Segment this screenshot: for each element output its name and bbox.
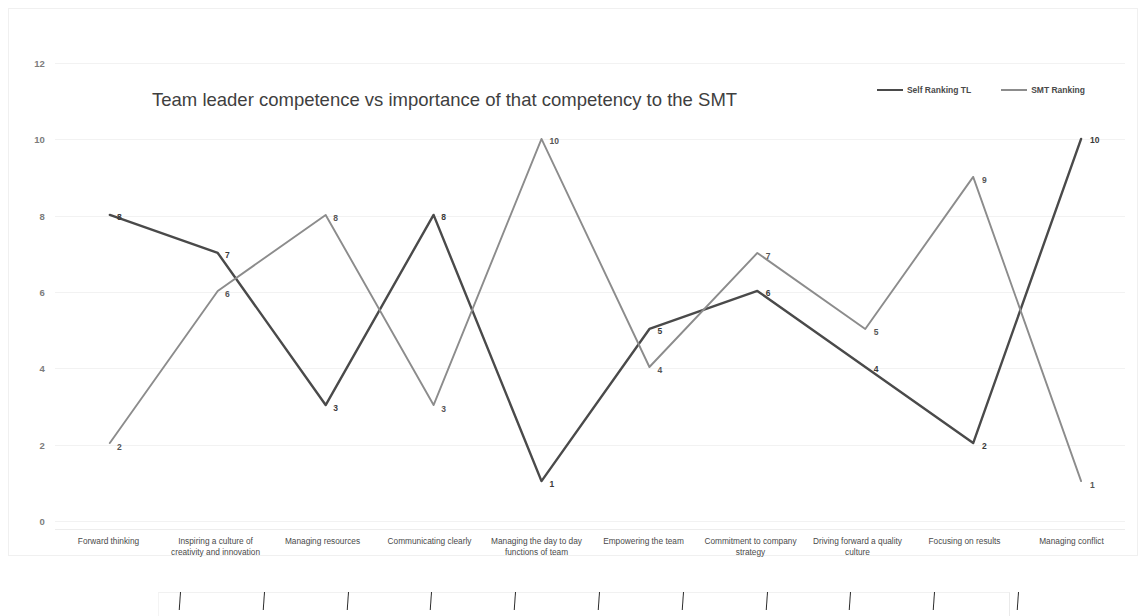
legend-swatch-icon <box>877 89 903 91</box>
data-point-label: 1 <box>549 479 554 489</box>
data-point-label: 5 <box>874 327 879 337</box>
legend-label: Self Ranking TL <box>907 85 971 95</box>
data-point-label: 6 <box>766 288 771 298</box>
series-line <box>110 139 1081 481</box>
data-point-label: 1 <box>1090 480 1095 490</box>
data-point-label: 7 <box>766 251 771 261</box>
chart-legend: Self Ranking TLSMT Ranking <box>877 85 1085 95</box>
data-point-label: 4 <box>658 365 663 375</box>
data-point-label: 4 <box>874 364 879 374</box>
series-line <box>110 139 1081 481</box>
data-point-label: 10 <box>1090 135 1099 145</box>
secondary-axis-tick <box>1017 592 1019 610</box>
chart-title: Team leader competence vs importance of … <box>152 89 792 111</box>
data-point-label: 3 <box>441 404 446 414</box>
data-point-label: 8 <box>117 212 122 222</box>
data-point-label: 8 <box>441 212 446 222</box>
data-point-label: 10 <box>549 136 558 146</box>
data-point-label: 5 <box>658 326 663 336</box>
legend-swatch-icon <box>1001 89 1027 91</box>
data-point-label: 9 <box>982 175 987 185</box>
secondary-axis-strip <box>8 566 1138 615</box>
legend-label: SMT Ranking <box>1031 85 1085 95</box>
data-point-label: 8 <box>333 213 338 223</box>
legend-item[interactable]: Self Ranking TL <box>877 85 971 95</box>
legend-item[interactable]: SMT Ranking <box>1001 85 1085 95</box>
secondary-axis-frame <box>158 592 1010 616</box>
data-point-label: 6 <box>225 289 230 299</box>
data-point-label: 2 <box>982 441 987 451</box>
data-point-label: 2 <box>117 442 122 452</box>
data-point-label: 7 <box>225 250 230 260</box>
line-chart-card: 024681012 8738156421026831047591 Team le… <box>8 8 1138 556</box>
data-point-label: 3 <box>333 403 338 413</box>
